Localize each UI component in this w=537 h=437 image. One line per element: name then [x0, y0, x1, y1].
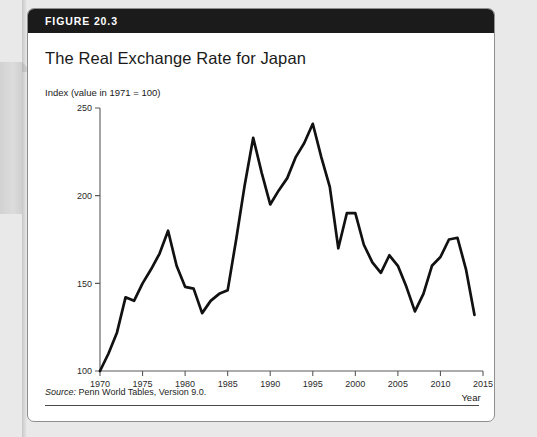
chart-plot-area: 100150200250 197019751980198519901995200… [28, 9, 495, 422]
x-tick-label: 2015 [473, 379, 493, 389]
y-tick-label: 250 [77, 103, 92, 113]
x-tick-label: 1995 [303, 379, 323, 389]
figure-card: FIGURE 20.3 The Real Exchange Rate for J… [27, 8, 495, 422]
x-tick-label: 1990 [260, 379, 280, 389]
x-axis-title: Year [461, 392, 480, 403]
source-note: Source: Penn World Tables, Version 9.0. [45, 387, 206, 397]
y-tick-label: 100 [77, 366, 92, 376]
footer-divider [45, 405, 479, 406]
x-tick-label: 2000 [345, 379, 365, 389]
page-edge-tab [0, 62, 22, 214]
source-text: Penn World Tables, Version 9.0. [76, 387, 206, 397]
x-tick-label: 2010 [430, 379, 450, 389]
x-tick-label: 1985 [218, 379, 238, 389]
y-tick-label: 200 [77, 191, 92, 201]
data-series-line [100, 124, 474, 371]
line-chart: 100150200250 197019751980198519901995200… [28, 9, 495, 422]
x-tick-label: 2005 [388, 379, 408, 389]
source-prefix: Source: [45, 387, 76, 397]
y-axis-ticks: 100150200250 [77, 103, 100, 376]
y-tick-label: 150 [77, 279, 92, 289]
page-background: FIGURE 20.3 The Real Exchange Rate for J… [0, 0, 537, 437]
